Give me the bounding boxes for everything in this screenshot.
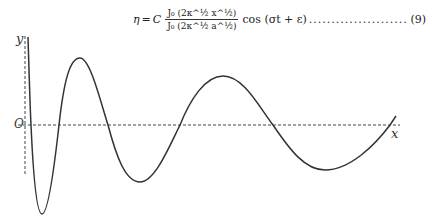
origin-label: O (14, 117, 24, 131)
bessel-plot (0, 0, 426, 223)
x-axis-label: x (391, 126, 398, 141)
y-axis-label: y (16, 31, 23, 46)
